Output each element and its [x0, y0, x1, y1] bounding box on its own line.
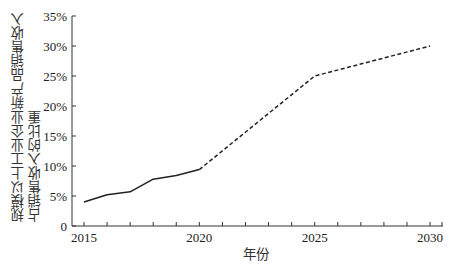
data-series: [84, 46, 430, 202]
y-tick-label: 20%: [43, 99, 67, 114]
x-tick-label: 2015: [71, 230, 97, 245]
x-axis-label: 年份: [243, 243, 269, 263]
y-tick-label: 30%: [43, 39, 67, 54]
y-axis-label-line-2: 占销售收入的比重: [27, 110, 43, 222]
axes: 05%10%15%20%25%30%35%2015202020252030: [43, 9, 443, 246]
line-chart: 05%10%15%20%25%30%35%2015202020252030: [0, 0, 453, 269]
y-tick-label: 15%: [43, 129, 67, 144]
series-line-projected: [199, 46, 430, 170]
x-tick-label: 2030: [417, 230, 443, 245]
y-axis-label-line-1: 规模以上工业企业新产品销售收入: [10, 12, 26, 222]
y-axis-label: 规模以上工业企业新产品销售收入 占销售收入的比重: [10, 12, 44, 222]
x-tick-label: 2020: [186, 230, 212, 245]
y-tick-label: 0: [61, 219, 68, 234]
y-tick-label: 10%: [43, 159, 67, 174]
y-tick-label: 5%: [50, 189, 68, 204]
x-tick-label: 2025: [302, 230, 328, 245]
series-line-actual: [84, 170, 199, 202]
y-tick-label: 25%: [43, 69, 67, 84]
y-tick-label: 35%: [43, 9, 67, 24]
